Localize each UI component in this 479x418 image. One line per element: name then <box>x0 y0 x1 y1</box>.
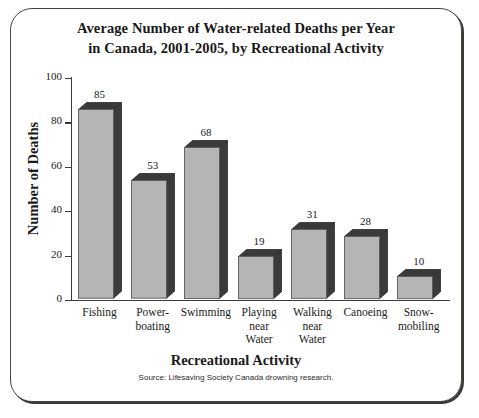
y-tick-label: 100 <box>46 70 63 82</box>
bar-shape <box>131 173 176 300</box>
x-axis-label: Recreational Activity <box>26 352 446 369</box>
bar-value-label: 19 <box>237 235 281 247</box>
x-category-label-line: Snow- <box>384 306 454 320</box>
y-axis-label: Number of Deaths <box>25 109 42 249</box>
bar-shape <box>344 229 389 300</box>
x-category-label-line: Water <box>277 333 347 347</box>
y-tick-mark <box>65 78 71 79</box>
x-category-label-7: Snow-mobiling <box>384 306 454 333</box>
bar-shape <box>291 222 336 300</box>
y-tick-mark <box>65 167 71 168</box>
x-category-label-line: mobiling <box>384 320 454 334</box>
y-tick-label: 0 <box>57 292 63 304</box>
bar-shape <box>397 269 442 300</box>
chart-figure: Average Number of Water-related Deaths p… <box>0 0 479 418</box>
y-tick-label: 20 <box>51 248 62 260</box>
y-tick-mark <box>65 211 71 212</box>
bar-value-label: 28 <box>344 215 388 227</box>
bar-shape <box>78 102 123 300</box>
bar-value-label: 85 <box>78 88 122 100</box>
chart-title-line-1: Average Number of Water-related Deaths p… <box>26 18 446 38</box>
y-tick-mark <box>65 256 71 257</box>
bar-value-label: 10 <box>397 255 441 267</box>
y-axis-line <box>71 77 72 301</box>
bar[interactable] <box>184 142 227 300</box>
bar[interactable] <box>131 175 174 300</box>
plot-area: 020406080100 85536819312810 FishingPower… <box>71 78 450 300</box>
x-category-label-line: boating <box>118 320 188 334</box>
bar-shape <box>184 140 229 300</box>
chart-title-line-2: in Canada, 2001-2005, by Recreational Ac… <box>26 38 446 58</box>
bar-value-label: 68 <box>184 126 228 138</box>
source-note: Source: Lifesaving Society Canada drowni… <box>26 373 446 382</box>
bar-shape <box>238 249 283 300</box>
y-tick-label: 80 <box>51 114 62 126</box>
bar[interactable] <box>78 104 121 300</box>
x-axis-line <box>71 300 450 301</box>
bar[interactable] <box>238 251 281 300</box>
bar[interactable] <box>344 231 387 300</box>
bar-value-label: 53 <box>131 159 175 171</box>
y-tick-mark <box>65 300 71 301</box>
bar[interactable] <box>291 224 334 300</box>
chart-title: Average Number of Water-related Deaths p… <box>26 18 446 58</box>
bar[interactable] <box>397 271 440 300</box>
y-tick-mark <box>65 122 71 123</box>
x-category-label-line: near <box>277 320 347 334</box>
bar-value-label: 31 <box>290 208 334 220</box>
y-tick-label: 60 <box>51 159 62 171</box>
y-tick-label: 40 <box>51 203 62 215</box>
